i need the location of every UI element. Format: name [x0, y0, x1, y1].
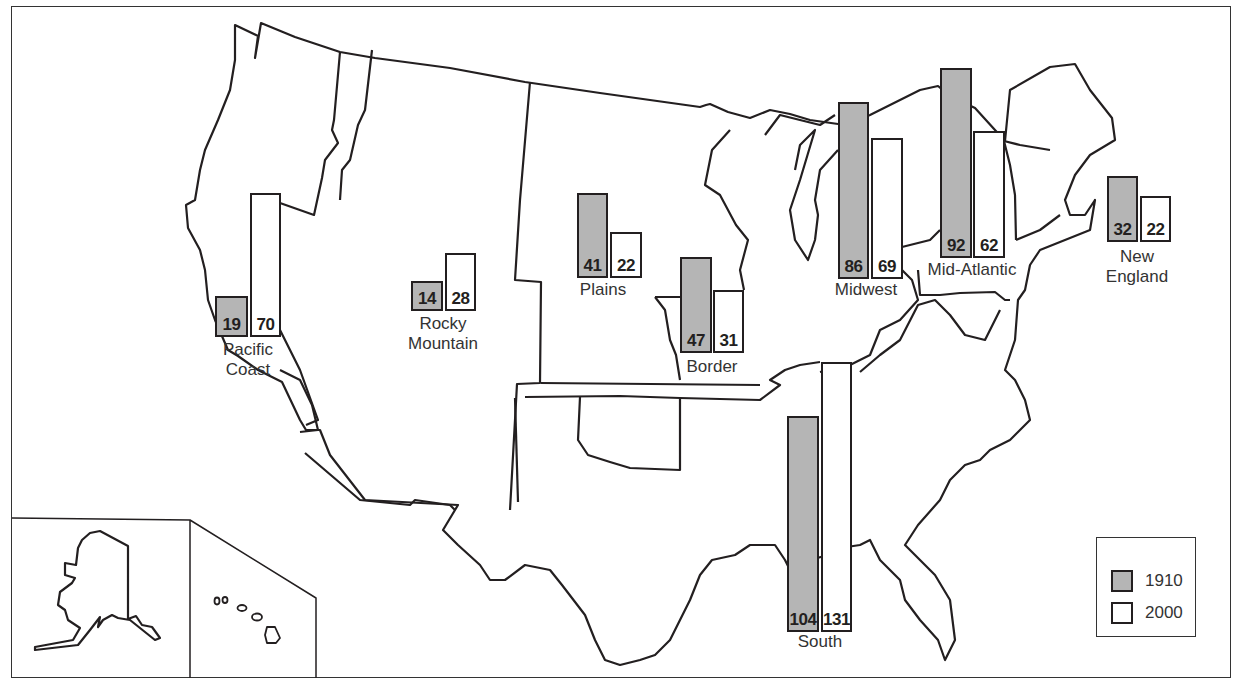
value-label: 19 — [217, 315, 246, 335]
region-label-midwest: Midwest — [835, 280, 897, 300]
value-label: 86 — [840, 257, 867, 277]
value-label: 22 — [1142, 220, 1169, 240]
plains-south-boundary — [541, 383, 760, 385]
rocky-boundary — [340, 50, 372, 200]
bar-mid-atlantic-1910: 92 — [940, 68, 972, 258]
region-label-border: Border — [686, 357, 737, 377]
rocky-east-boundary — [510, 82, 541, 510]
bar-pacific-coast-1910: 19 — [215, 296, 248, 337]
region-label-new-england: New England — [1106, 247, 1168, 287]
value-label: 131 — [823, 610, 850, 630]
bar-plains-2000: 22 — [610, 232, 642, 278]
region-label-rocky-mountain: Rocky Mountain — [408, 314, 478, 354]
value-label: 41 — [579, 256, 606, 276]
hawaii-island-3 — [238, 605, 247, 611]
bar-mid-atlantic-2000: 62 — [973, 131, 1005, 258]
hawaii-island-1 — [215, 598, 220, 605]
virginia — [860, 300, 1000, 372]
bar-pacific-coast-2000: 70 — [250, 193, 281, 337]
hawaii-island-4 — [252, 614, 262, 621]
border-west — [655, 297, 680, 380]
texas-top — [515, 398, 518, 502]
south-border-top — [525, 362, 820, 400]
value-label: 28 — [447, 289, 474, 309]
value-label: 47 — [682, 331, 710, 351]
us-outline — [186, 23, 1115, 665]
region-label-plains: Plains — [580, 280, 626, 300]
bar-south-2000: 131 — [821, 362, 852, 632]
value-label: 104 — [789, 610, 817, 630]
bar-new-england-1910: 32 — [1107, 176, 1138, 242]
legend-item-1910: 1910 — [1111, 570, 1183, 592]
bar-rocky-mountain-2000: 28 — [445, 253, 476, 311]
value-label: 22 — [612, 256, 640, 276]
bar-plains-1910: 41 — [577, 193, 608, 278]
value-label: 31 — [715, 331, 742, 351]
oklahoma — [578, 397, 680, 470]
legend-swatch-1910 — [1111, 570, 1133, 592]
legend: 1910 2000 — [1096, 537, 1196, 637]
us-map — [0, 0, 1234, 682]
hawaii-big-island — [265, 627, 280, 643]
value-label: 32 — [1109, 220, 1136, 240]
bar-south-1910: 104 — [787, 416, 819, 632]
region-label-south: South — [798, 632, 842, 652]
bar-midwest-2000: 69 — [871, 138, 903, 279]
new-england-boundary — [1004, 141, 1060, 240]
great-lakes — [790, 130, 838, 260]
bar-new-england-2000: 22 — [1140, 196, 1171, 242]
inset-frame — [12, 518, 316, 678]
value-label: 92 — [942, 236, 970, 256]
value-label: 70 — [252, 315, 279, 335]
bar-rocky-mountain-1910: 14 — [411, 281, 443, 311]
pacific-boundary — [280, 52, 340, 215]
region-label-pacific-coast: Pacific Coast — [223, 340, 273, 380]
legend-swatch-2000 — [1111, 602, 1133, 624]
value-label: 14 — [413, 289, 441, 309]
rocky-south-boundary — [305, 453, 455, 510]
alaska-outline — [35, 531, 160, 650]
region-label-mid-atlantic: Mid-Atlantic — [928, 260, 1017, 280]
bar-midwest-1910: 86 — [838, 102, 869, 279]
legend-item-2000: 2000 — [1111, 602, 1183, 624]
bar-border-1910: 47 — [680, 257, 712, 353]
value-label: 62 — [975, 236, 1003, 256]
bar-border-2000: 31 — [713, 290, 744, 353]
value-label: 69 — [873, 257, 901, 277]
hawaii-island-2 — [223, 597, 228, 603]
